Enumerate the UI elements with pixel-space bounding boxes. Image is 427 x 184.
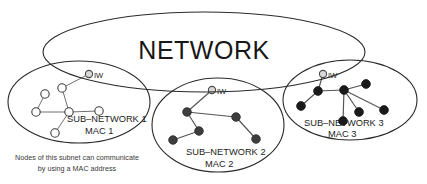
subnet-3-ellipse[interactable]	[283, 60, 417, 140]
subnet-2-nodes	[169, 108, 261, 145]
node[interactable]	[355, 108, 364, 117]
node[interactable]	[51, 129, 59, 137]
caption-line-1: Nodes of this subnet can communicate	[15, 153, 139, 162]
node[interactable]	[297, 102, 306, 111]
subnet-2-mac-label: MAC 2	[205, 159, 233, 169]
node[interactable]	[195, 127, 204, 136]
gateway-iw-icon[interactable]	[319, 70, 326, 77]
node[interactable]	[362, 80, 371, 89]
subnet-3-mac-label: MAC 3	[328, 129, 356, 139]
node[interactable]	[41, 90, 49, 98]
node[interactable]	[169, 136, 178, 145]
diagram-canvas: IW SUB–NETWORK 1 MAC 1	[0, 0, 427, 184]
subnet-1-mac-label: MAC 1	[85, 126, 113, 136]
subnet-1-gateway[interactable]: IW	[85, 70, 104, 80]
network-topology-diagram: IW SUB–NETWORK 1 MAC 1	[0, 0, 427, 184]
network-title: NETWORK	[138, 36, 269, 64]
subnet-3-group[interactable]: IW SUB–NETWORK 3 MAC 3	[283, 60, 417, 140]
node[interactable]	[380, 106, 389, 115]
subnet-1-gateway-label: IW	[94, 71, 104, 80]
subnet-1-ellipse[interactable]	[8, 61, 150, 143]
node[interactable]	[183, 108, 192, 117]
subnet-1-caption: Nodes of this subnet can communicate by …	[15, 153, 139, 173]
node[interactable]	[232, 113, 241, 122]
caption-line-2: by using a MAC address	[38, 164, 117, 173]
gateway-iw-icon[interactable]	[85, 70, 92, 77]
subnet-1-group[interactable]: IW SUB–NETWORK 1 MAC 1	[8, 61, 150, 143]
network-group[interactable]: NETWORK	[43, 12, 365, 92]
subnet-1-links	[36, 74, 99, 133]
node[interactable]	[252, 135, 261, 144]
subnet-1-label: SUB–NETWORK 1	[67, 114, 147, 124]
subnet-2-label: SUB–NETWORK 2	[186, 147, 266, 157]
node[interactable]	[340, 86, 349, 95]
node[interactable]	[314, 87, 323, 96]
subnet-3-label: SUB–NETWORK 3	[304, 118, 384, 128]
node[interactable]	[58, 84, 66, 92]
node[interactable]	[32, 108, 40, 116]
